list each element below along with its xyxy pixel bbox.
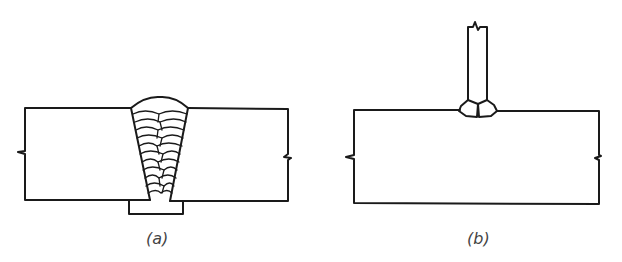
plate-left — [18, 108, 150, 200]
fillet-weld-right — [478, 100, 497, 117]
weld-cap — [131, 97, 188, 108]
weld-joint-diagram — [0, 0, 622, 262]
panel-b-label: (b) — [467, 229, 490, 248]
panel-b-tee-joint — [346, 22, 601, 204]
panel-a-butt-joint — [18, 97, 291, 214]
stem-plate — [468, 22, 487, 100]
panel-a-label: (a) — [146, 229, 168, 248]
fillet-weld-left — [459, 100, 478, 117]
plate-bottom — [346, 110, 601, 204]
backing-bar — [129, 201, 183, 214]
plate-right — [170, 108, 291, 201]
